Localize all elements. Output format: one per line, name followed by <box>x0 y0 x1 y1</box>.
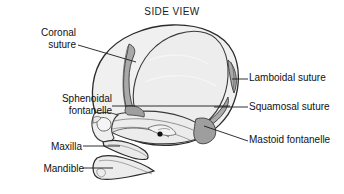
label-sphenoidal-fontanelle: Sphenoidal fontanelle <box>16 93 112 116</box>
mastoid-fontanelle-patch <box>194 118 216 144</box>
label-lamboidal-suture: Lamboidal suture <box>249 72 344 84</box>
label-maxilla: Maxilla <box>2 141 82 153</box>
label-coronal-suture: Coronal suture <box>0 27 76 50</box>
label-mastoid-fontanelle: Mastoid fontanelle <box>249 134 344 146</box>
label-mandible: Mandible <box>4 163 84 175</box>
foramen <box>157 131 162 136</box>
label-squamosal-suture: Squamosal suture <box>249 101 344 113</box>
figure-container: SIDE VIEW <box>0 0 344 194</box>
